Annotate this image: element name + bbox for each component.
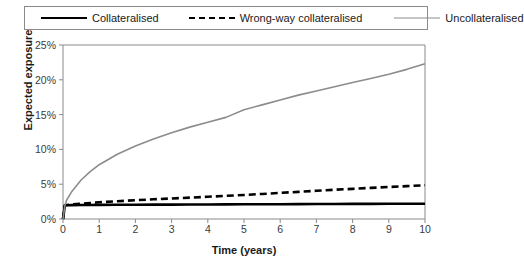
series-line-1: [63, 185, 425, 219]
series-line-0: [63, 204, 425, 219]
legend-label-uncollateralised: Uncollateralised: [445, 13, 523, 24]
